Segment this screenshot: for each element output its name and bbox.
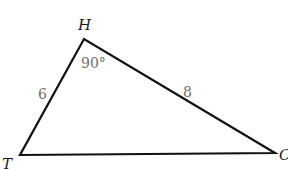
triangle-diagram: H T C 6 8 90° (0, 0, 288, 170)
vertex-label-h: H (77, 16, 92, 34)
triangle-htc (20, 39, 275, 155)
vertex-label-c: C (279, 146, 288, 164)
side-label-hc: 8 (183, 84, 192, 100)
side-label-ht: 6 (38, 86, 47, 102)
right-angle-label: 90° (81, 55, 106, 71)
vertex-label-t: T (2, 155, 13, 170)
